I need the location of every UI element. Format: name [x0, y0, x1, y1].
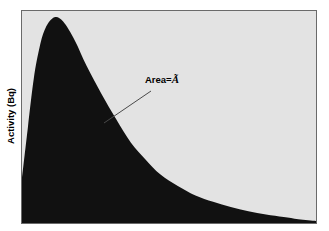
activity-curve-filled-area	[22, 17, 316, 223]
activity-curve-chart	[22, 11, 316, 223]
figure-container: Activity (Bq) Area=Ã	[0, 0, 329, 231]
area-annotation-prefix: Area=	[145, 74, 172, 85]
y-axis-label-text: Activity (Bq)	[5, 88, 16, 144]
plot-area	[21, 10, 317, 224]
y-axis-label: Activity (Bq)	[0, 0, 20, 231]
area-annotation-symbol: Ã	[172, 73, 179, 85]
area-annotation-label: Area=Ã	[145, 74, 179, 85]
